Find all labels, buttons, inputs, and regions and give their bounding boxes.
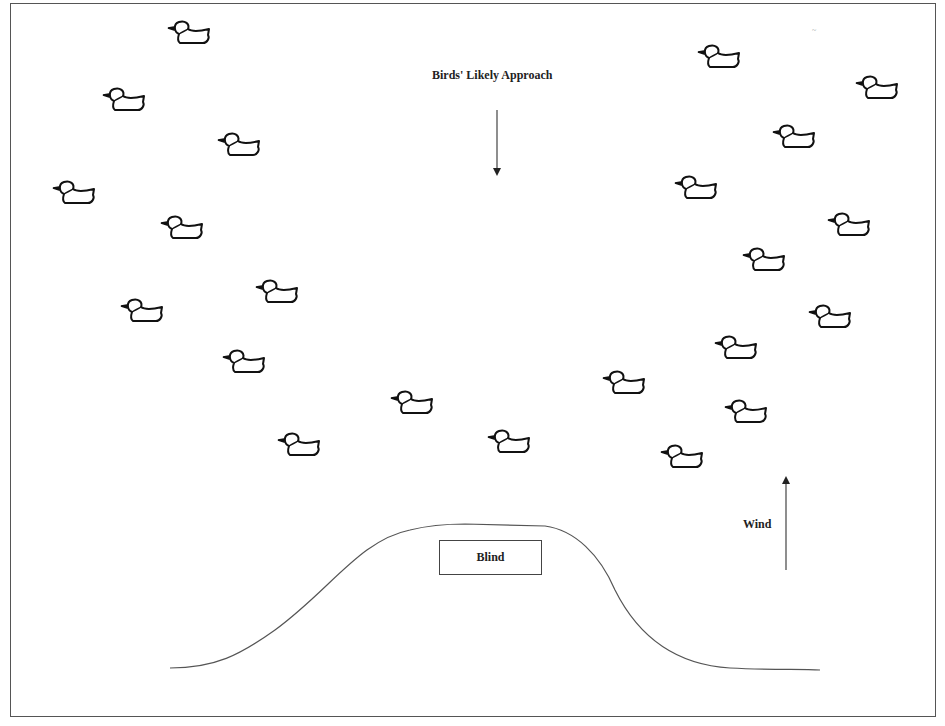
duck-decoy-icon: [695, 42, 743, 72]
duck-decoy-icon: [275, 430, 323, 460]
duck-decoy-icon: [158, 213, 206, 243]
duck-decoy-icon: [215, 130, 263, 160]
duck-decoy-icon: [600, 368, 648, 398]
duck-decoy-icon: [485, 427, 533, 457]
duck-decoy-icon: [672, 173, 720, 203]
duck-decoy-icon: [165, 18, 213, 48]
duck-decoy-icon: [825, 210, 873, 240]
duck-decoy-icon: [712, 333, 760, 363]
duck-decoy-icon: [770, 122, 818, 152]
duck-decoy-icon: [388, 388, 436, 418]
duck-decoy-icon: [806, 302, 854, 332]
duck-decoy-icon: [100, 85, 148, 115]
duck-decoy-icon: [722, 397, 770, 427]
duck-decoy-icon: [658, 442, 706, 472]
duck-decoy-icon: [118, 296, 166, 326]
blind-label: Blind: [476, 550, 504, 565]
duck-decoy-icon: [740, 245, 788, 275]
duck-decoy-icon: [853, 73, 901, 103]
blind-box: Blind: [439, 540, 542, 575]
duck-decoy-icon: [220, 347, 268, 377]
duck-decoy-icon: [253, 277, 301, 307]
duck-decoy-icon: [50, 178, 98, 208]
